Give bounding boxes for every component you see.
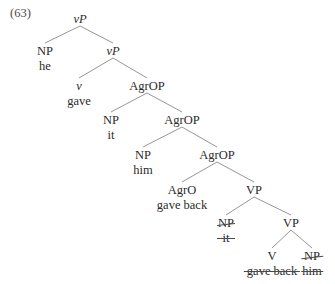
node-category-label: AgrO <box>157 183 207 198</box>
tree-node-vp-inner: vP <box>106 44 119 59</box>
tree-node-agrop-2: AgrOP <box>164 113 199 128</box>
branch-vp-root-to-vp-inner <box>80 26 113 43</box>
tree-branch-lines <box>0 0 335 284</box>
node-terminal-word: gave <box>67 94 91 109</box>
tree-node-vp-1: VP <box>246 183 262 198</box>
node-terminal-word: it <box>218 231 234 246</box>
tree-node-np-it-trace: NPit <box>218 216 234 246</box>
node-category-label: NP <box>37 44 53 59</box>
node-terminal-word: him <box>302 264 321 279</box>
branch-vp-2-to-np-him-trace <box>291 230 312 248</box>
tree-node-agro-gaveback: AgrOgave back <box>157 183 207 213</box>
node-terminal-word: it <box>103 128 119 143</box>
tree-node-np-him-trace: NPhim <box>302 249 321 279</box>
branch-agrop-2-to-agrop-3 <box>182 127 217 147</box>
branch-agrop-1-to-np-it <box>111 93 147 112</box>
branch-vp-1-to-vp-2 <box>254 197 291 215</box>
node-category-label: VP <box>283 216 299 231</box>
tree-node-np-he: NPhe <box>37 44 53 74</box>
tree-node-agrop-1: AgrOP <box>129 79 164 94</box>
node-category-label: NP <box>133 148 152 163</box>
tree-node-v-trace: Vgave back <box>247 249 297 279</box>
node-category-label: vP <box>73 12 86 27</box>
syntax-tree-figure: (63) vPNPhevPvgaveAgrOPNPitAgrOPNPhimAgr… <box>0 0 335 284</box>
node-terminal-word: gave back <box>247 264 297 279</box>
node-category-label: AgrOP <box>199 148 234 163</box>
node-category-label: v <box>67 79 91 94</box>
tree-node-np-it: NPit <box>103 113 119 143</box>
branch-vp-2-to-v-trace <box>272 230 291 248</box>
node-category-label: vP <box>106 44 119 59</box>
node-terminal-word: gave back <box>157 198 207 213</box>
node-terminal-word: him <box>133 163 152 178</box>
branch-agrop-1-to-agrop-2 <box>147 93 182 112</box>
node-category-label: NP <box>302 249 321 264</box>
node-category-label: AgrOP <box>164 113 199 128</box>
branch-vp-root-to-np-he <box>45 26 80 43</box>
node-terminal-word: he <box>37 59 53 74</box>
node-category-label: NP <box>103 113 119 128</box>
branch-vp-inner-to-agrop-1 <box>113 58 147 78</box>
branch-vp-1-to-np-it-trace <box>226 197 254 215</box>
node-category-label: VP <box>246 183 262 198</box>
branch-agrop-2-to-np-him <box>143 127 182 147</box>
tree-node-vp-root: vP <box>73 12 86 27</box>
branch-vp-inner-to-v-gave <box>79 58 113 78</box>
tree-node-agrop-3: AgrOP <box>199 148 234 163</box>
tree-node-np-him: NPhim <box>133 148 152 178</box>
tree-node-vp-2: VP <box>283 216 299 231</box>
node-category-label: NP <box>218 216 234 231</box>
tree-node-v-gave: vgave <box>67 79 91 109</box>
node-category-label: AgrOP <box>129 79 164 94</box>
branch-agrop-3-to-agro-gaveback <box>182 162 217 182</box>
node-category-label: V <box>247 249 297 264</box>
branch-agrop-3-to-vp-1 <box>217 162 254 182</box>
